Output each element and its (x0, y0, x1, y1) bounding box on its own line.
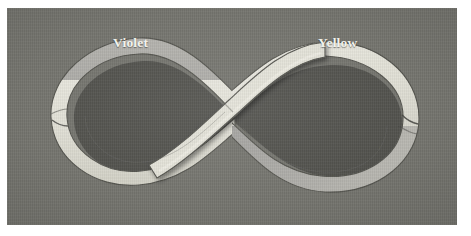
label-violet: Violet (113, 36, 148, 50)
photo-plate: Violet Yellow (7, 8, 457, 225)
label-yellow: Yellow (318, 36, 357, 50)
figure-root: Violet Yellow (0, 0, 471, 236)
mobius-strip-icon (7, 8, 457, 225)
